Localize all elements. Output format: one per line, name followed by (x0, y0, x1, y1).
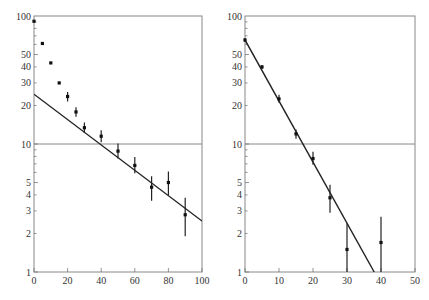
y-tick-label: 2 (26, 228, 31, 239)
y-tick-label: 1 (26, 267, 31, 278)
x-tick-label: 20 (308, 275, 318, 286)
data-point (345, 248, 348, 251)
y-tick-label: 3 (237, 205, 242, 216)
data-point (243, 38, 246, 41)
y-tick-label: 30 (21, 77, 31, 88)
data-point (260, 65, 263, 68)
y-tick-label: 4 (26, 189, 31, 200)
x-tick-label: 0 (243, 275, 248, 286)
y-tick-label: 1 (237, 267, 242, 278)
x-tick-label: 50 (410, 275, 420, 286)
x-tick-label: 10 (274, 275, 284, 286)
x-tick-label: 60 (130, 275, 140, 286)
y-tick-label: 50 (21, 49, 31, 60)
figure: 100504030201054321020406080100 100504030… (0, 0, 429, 300)
y-tick-label: 20 (21, 100, 31, 111)
y-tick-label: 100 (227, 11, 242, 22)
y-tick-label: 5 (26, 177, 31, 188)
x-tick-label: 80 (163, 275, 173, 286)
data-point (49, 61, 52, 64)
x-tick-label: 20 (63, 275, 73, 286)
y-tick-label: 40 (21, 61, 31, 72)
y-tick-label: 10 (21, 139, 31, 150)
data-point (328, 196, 331, 199)
data-point (379, 241, 382, 244)
y-tick-label: 5 (237, 177, 242, 188)
data-point (83, 126, 86, 129)
left-panel: 100504030201054321020406080100 (16, 11, 210, 287)
data-point (74, 110, 77, 113)
data-point (167, 181, 170, 184)
right-panel: 10050403020105432101020304050 (227, 11, 420, 287)
x-tick-label: 40 (376, 275, 386, 286)
data-point (32, 20, 35, 23)
y-tick-label: 2 (237, 228, 242, 239)
data-point (116, 150, 119, 153)
x-tick-label: 0 (32, 275, 37, 286)
y-tick-label: 10 (232, 139, 242, 150)
data-point (100, 135, 103, 138)
data-point (184, 213, 187, 216)
fit-line (245, 40, 374, 272)
data-point (277, 97, 280, 100)
data-point (58, 81, 61, 84)
data-point (66, 95, 69, 98)
x-tick-label: 40 (96, 275, 106, 286)
y-tick-label: 4 (237, 189, 242, 200)
y-tick-label: 3 (26, 205, 31, 216)
data-point (133, 164, 136, 167)
x-tick-label: 100 (195, 275, 210, 286)
y-tick-label: 50 (232, 49, 242, 60)
y-tick-label: 100 (16, 11, 31, 22)
data-point (294, 132, 297, 135)
y-tick-label: 30 (232, 77, 242, 88)
x-tick-label: 30 (342, 275, 352, 286)
data-point (150, 186, 153, 189)
y-tick-label: 40 (232, 61, 242, 72)
data-point (41, 42, 44, 45)
data-point (311, 157, 314, 160)
y-tick-label: 20 (232, 100, 242, 111)
